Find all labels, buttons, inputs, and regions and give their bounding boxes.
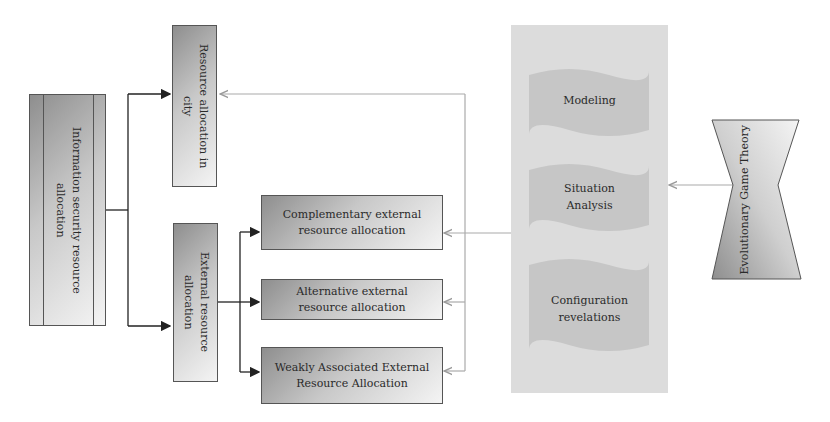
step-situation-analysis: Situation Analysis: [511, 180, 668, 214]
external-label: External resource allocation: [180, 252, 212, 352]
root-label: Information security resource allocation: [52, 127, 84, 294]
city-node: Resource allocation in city: [172, 25, 217, 187]
alternative-node: Alternative external resource allocation: [261, 279, 443, 320]
theory-label: Evolutionary Game Theory: [738, 125, 751, 274]
complementary-label: Complementary external resource allocati…: [283, 207, 422, 239]
step-modeling: Modeling: [511, 92, 668, 109]
root-node: Information security resource allocation: [29, 94, 106, 326]
step-configuration-revelations: Configuration revelations: [511, 292, 668, 326]
theory-node: Evolutionary Game Theory: [709, 120, 779, 280]
weakly-associated-label: Weakly Associated External Resource Allo…: [275, 360, 430, 392]
external-node: External resource allocation: [173, 223, 218, 382]
weakly-associated-node: Weakly Associated External Resource Allo…: [261, 347, 443, 404]
alternative-label: Alternative external resource allocation: [296, 284, 408, 316]
complementary-node: Complementary external resource allocati…: [261, 195, 443, 250]
city-label: Resource allocation in city: [179, 44, 211, 168]
method-panel: Modeling Situation Analysis Configuratio…: [511, 25, 668, 393]
